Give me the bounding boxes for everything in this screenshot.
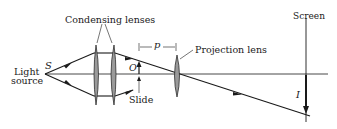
projection-lens-leader	[180, 50, 193, 59]
projection-lens	[175, 55, 180, 97]
slide-label: Slide	[129, 94, 154, 105]
projection-lens-label: Projection lens	[195, 44, 267, 55]
source-label: source	[11, 75, 44, 86]
image-symbol: I	[295, 89, 301, 100]
condensing-leaders	[97, 24, 112, 43]
slide-leader-arrowhead	[137, 76, 141, 81]
source-symbol: S	[45, 60, 52, 71]
condensing-lenses-label: Condensing lenses	[65, 14, 155, 25]
object-arrowhead	[137, 61, 142, 67]
object-symbol: O	[129, 62, 137, 73]
image-arrowhead	[303, 106, 309, 114]
projector-diagram: Condensing lenses S Light source O Slide…	[0, 0, 337, 129]
ray-arrows	[64, 57, 242, 96]
distance-symbol: p	[154, 39, 161, 50]
screen-label: Screen	[293, 11, 325, 21]
